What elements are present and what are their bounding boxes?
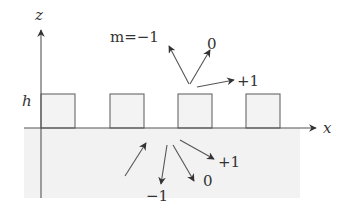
grating-tooth bbox=[246, 94, 280, 128]
z-axis-label: z bbox=[34, 6, 43, 24]
height-label: h bbox=[22, 92, 32, 110]
reflected-order-plus1-label: +1 bbox=[237, 72, 259, 90]
reflected-order-minus1-arrow bbox=[169, 46, 189, 84]
reflected-order-minus1-label: m=−1 bbox=[110, 28, 159, 46]
grating-tooth bbox=[178, 94, 212, 128]
transmitted-order-0-label: 0 bbox=[203, 172, 213, 190]
reflected-order-0-label: 0 bbox=[207, 35, 217, 53]
grating-diagram: z x h m=−1 0 +1 −1 0 +1 bbox=[0, 0, 356, 214]
grating-teeth bbox=[41, 94, 280, 128]
grating-tooth bbox=[110, 94, 144, 128]
reflected-order-0-arrow bbox=[190, 50, 210, 84]
reflected-order-plus1-arrow bbox=[197, 80, 234, 87]
grating-tooth bbox=[41, 94, 75, 128]
transmitted-order-minus1-label: −1 bbox=[146, 187, 168, 205]
reflected-orders: m=−1 0 +1 bbox=[110, 28, 259, 90]
transmitted-order-plus1-label: +1 bbox=[218, 153, 240, 171]
x-axis-label: x bbox=[323, 119, 332, 137]
